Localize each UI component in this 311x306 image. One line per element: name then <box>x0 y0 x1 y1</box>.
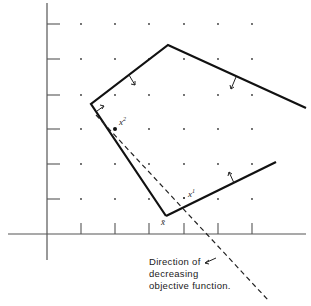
point-x1 <box>183 197 185 199</box>
caption-line-1: Direction of <box>149 256 231 268</box>
label-x-bar: x̄ <box>161 217 165 227</box>
y-ticks <box>47 24 60 199</box>
direction-caption: Direction of decreasing objective functi… <box>149 256 231 292</box>
point-x2 <box>113 127 117 131</box>
caption-line-3: objective function. <box>149 280 231 292</box>
label-x1: x1 <box>188 188 195 199</box>
arrow-icon <box>230 77 236 89</box>
label-x2: x2 <box>119 116 126 127</box>
grid-dots <box>80 23 253 200</box>
points <box>113 127 185 199</box>
constraint-boundary-lower <box>166 162 276 216</box>
constraint-boundary-upper <box>91 45 306 216</box>
arrow-icon <box>228 172 234 183</box>
x-ticks <box>81 223 252 234</box>
caption-line-2: decreasing <box>149 268 231 280</box>
normal-arrows <box>97 75 236 264</box>
arrow-icon <box>97 105 104 111</box>
axes <box>8 3 306 260</box>
arrow-icon <box>129 75 135 85</box>
